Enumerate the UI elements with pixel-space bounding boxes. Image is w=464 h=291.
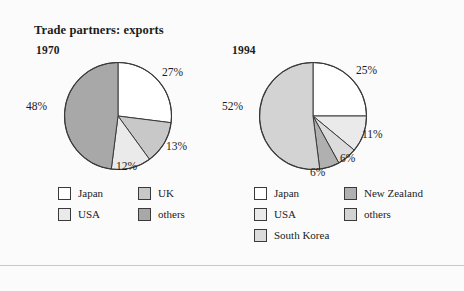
legend-label-1970-usa: USA: [78, 209, 100, 220]
legend-swatch-icon-others: [138, 208, 151, 221]
legend-swatch-icon-usa: [58, 208, 71, 221]
legend-item-1994-others: others: [344, 206, 454, 223]
legend-swatch-icon-japan: [254, 187, 267, 200]
legend-label-1994-usa: USA: [274, 209, 296, 220]
legend-label-1970-others: others: [158, 209, 185, 220]
legend-swatch-icon-uk: [138, 187, 151, 200]
pie-label-1994-usa: 11%: [362, 128, 383, 140]
legend-item-1970-usa: USA: [58, 206, 126, 223]
legend-swatch-icon-new-zealand: [344, 187, 357, 200]
legend-item-1970-others: others: [138, 206, 206, 223]
legend-label-1994-japan: Japan: [274, 188, 299, 199]
legend-swatch-icon-south-korea: [254, 229, 267, 242]
pie-panel-1994: 1994 25% 11% 6% 6% 52% Japan USA South K…: [222, 0, 432, 291]
pie-label-1970-japan: 27%: [162, 66, 183, 78]
pie-label-1994-others: 52%: [222, 100, 243, 112]
legend-1970: Japan USA UK others: [58, 185, 206, 223]
legend-label-1970-japan: Japan: [78, 188, 103, 199]
panel-year-label-1970: 1970: [36, 44, 60, 56]
legend-label-1970-uk: UK: [158, 188, 174, 199]
legend-item-1994-new-zealand: New Zealand: [344, 185, 454, 202]
pie-label-1994-japan: 25%: [356, 64, 377, 76]
bottom-divider: [0, 265, 464, 266]
trade-partners-exports-figure: Trade partners: exports 1970 27% 13% 12%…: [0, 0, 464, 291]
pie-label-1994-new-zealand: 6%: [310, 166, 325, 178]
legend-item-1994-usa: USA: [254, 206, 332, 223]
pie-slice-1994-others: [260, 63, 320, 170]
legend-swatch-icon-others: [344, 208, 357, 221]
legend-item-1994-south-korea: South Korea: [254, 227, 332, 244]
legend-item-1970-uk: UK: [138, 185, 206, 202]
legend-item-1994-japan: Japan: [254, 185, 332, 202]
legend-swatch-icon-usa: [254, 208, 267, 221]
legend-1994: Japan USA South Korea New Zealand others: [254, 185, 454, 244]
pie-label-1970-others: 48%: [26, 100, 47, 112]
legend-label-1994-others: others: [364, 209, 391, 220]
pie-slice-1970-others: [64, 63, 118, 170]
panel-year-label-1994: 1994: [232, 44, 256, 56]
pie-panel-1970: 1970 27% 13% 12% 48% Japan USA UK: [22, 0, 232, 291]
pie-label-1970-uk: 13%: [166, 140, 187, 152]
pie-label-1994-south-korea: 6%: [340, 152, 355, 164]
legend-swatch-icon-japan: [58, 187, 71, 200]
pie-svg-1970: [60, 58, 176, 174]
legend-item-1970-japan: Japan: [58, 185, 126, 202]
legend-label-1994-south-korea: South Korea: [274, 230, 329, 241]
legend-label-1994-new-zealand: New Zealand: [364, 188, 423, 199]
pie-label-1970-usa: 12%: [116, 160, 137, 172]
